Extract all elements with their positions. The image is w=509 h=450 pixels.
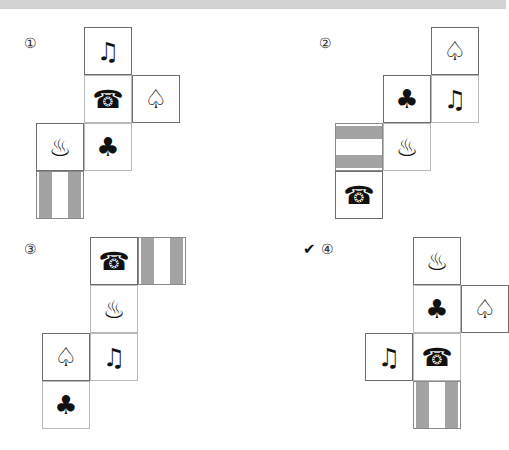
- bar-stripe-b: [336, 155, 382, 168]
- option-2-face-club: ♣: [383, 75, 431, 123]
- spade-outline-icon: ♤: [473, 296, 496, 322]
- music-note-icon: ♫: [378, 345, 400, 370]
- option-3-label[interactable]: ③: [24, 243, 38, 257]
- option-4-face-spade: ♤: [461, 285, 509, 333]
- music-note-icon: ♫: [97, 39, 119, 64]
- club-outline-icon: ♣: [395, 86, 418, 112]
- bar-stripe-a: [141, 238, 154, 284]
- option-2-face-onsen: ♨: [383, 123, 431, 171]
- option-2-face-phone: ☎: [335, 171, 383, 219]
- telephone-icon: ☎: [421, 345, 452, 370]
- telephone-icon: ☎: [98, 249, 129, 274]
- hot-spring-icon: ♨: [49, 135, 71, 160]
- option-1[interactable]: ①♫☎♤♨♣: [0, 9, 253, 229]
- hot-spring-icon: ♨: [426, 249, 448, 274]
- bar-stripe-b: [68, 172, 81, 218]
- option-1-face-club: ♣: [84, 123, 132, 171]
- option-3[interactable]: ③☎♨♤♫♣: [0, 229, 253, 449]
- top-gray-bar: [0, 0, 506, 9]
- spade-outline-icon: ♤: [443, 38, 466, 64]
- option-4-face-onsen: ♨: [413, 237, 461, 285]
- spade-outline-icon: ♤: [54, 344, 77, 370]
- option-4-label[interactable]: ④: [321, 243, 335, 257]
- bar-stripe-a: [336, 126, 382, 139]
- check-icon: ✔: [303, 242, 316, 257]
- option-1-face-phone: ☎: [84, 75, 132, 123]
- spade-outline-icon: ♤: [144, 86, 167, 112]
- hot-spring-icon: ♨: [103, 297, 125, 322]
- hot-spring-icon: ♨: [396, 135, 418, 160]
- option-3-face-phone: ☎: [90, 237, 138, 285]
- bar-stripe-b: [445, 382, 458, 428]
- option-2-face-spade: ♤: [431, 27, 479, 75]
- option-1-face-note: ♫: [84, 27, 132, 75]
- striped-bars-icon: [414, 382, 460, 428]
- option-4-face-bars: [413, 381, 461, 429]
- option-2-label[interactable]: ②: [319, 37, 333, 51]
- option-1-face-onsen: ♨: [36, 123, 84, 171]
- bar-stripe-a: [39, 172, 52, 218]
- options-grid: ①♫☎♤♨♣②♤♣♫♨☎③☎♨♤♫♣✔④♨♣♤♫☎: [0, 9, 506, 450]
- club-outline-icon: ♣: [425, 296, 448, 322]
- option-2-face-note: ♫: [431, 75, 479, 123]
- option-3-face-bars: [138, 237, 186, 285]
- telephone-icon: ☎: [92, 87, 123, 112]
- music-note-icon: ♫: [444, 87, 466, 112]
- option-4-face-note: ♫: [365, 333, 413, 381]
- bar-stripe-a: [416, 382, 429, 428]
- option-2[interactable]: ②♤♣♫♨☎: [253, 9, 506, 229]
- club-outline-icon: ♣: [96, 134, 119, 160]
- option-3-face-spade: ♤: [42, 333, 90, 381]
- option-1-face-spade: ♤: [132, 75, 180, 123]
- option-3-face-club: ♣: [42, 381, 90, 429]
- option-4-face-club: ♣: [413, 285, 461, 333]
- striped-bars-icon: [336, 124, 382, 170]
- option-4-face-phone: ☎: [413, 333, 461, 381]
- option-2-face-bars: [335, 123, 383, 171]
- striped-bars-icon: [139, 238, 185, 284]
- option-3-face-onsen: ♨: [90, 285, 138, 333]
- bar-stripe-b: [170, 238, 183, 284]
- option-3-face-note: ♫: [90, 333, 138, 381]
- club-outline-icon: ♣: [54, 392, 77, 418]
- option-1-label[interactable]: ①: [24, 37, 38, 51]
- music-note-icon: ♫: [103, 345, 125, 370]
- striped-bars-icon: [37, 172, 83, 218]
- option-1-face-bars: [36, 171, 84, 219]
- telephone-icon: ☎: [343, 183, 374, 208]
- option-4[interactable]: ✔④♨♣♤♫☎: [253, 229, 506, 449]
